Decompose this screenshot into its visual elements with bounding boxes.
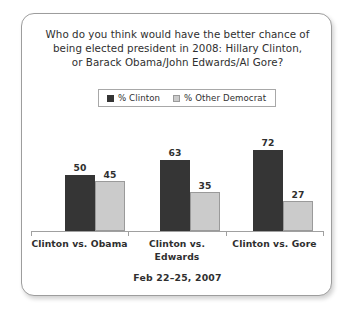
category-label-clinton-vs-gore: Clinton vs. Gore xyxy=(226,238,323,251)
legend-label-other-democrat: % Other Democrat xyxy=(184,93,266,103)
bar-clinton-edwards: 63 xyxy=(160,160,190,231)
bar-clinton-gore: 72 xyxy=(253,150,283,231)
category-label-clinton-vs-edwards: Clinton vs. Edwards xyxy=(128,238,226,263)
axis-tick-2 xyxy=(226,232,227,236)
plot-area: 50 45 63 35 72 xyxy=(31,119,324,231)
bar-value-other-edwards: 35 xyxy=(191,180,219,191)
bar-other-obama: 45 xyxy=(95,181,125,231)
chart-title: Who do you think would have the better c… xyxy=(32,27,323,70)
bar-value-clinton-edwards: 63 xyxy=(160,147,190,158)
legend-label-clinton: % Clinton xyxy=(118,93,160,103)
legend-item-other-democrat: % Other Democrat xyxy=(173,93,266,103)
category-label-gore-line-1: Clinton vs. Gore xyxy=(232,238,316,249)
bar-other-edwards: 35 xyxy=(190,192,220,231)
x-axis-line xyxy=(31,231,324,232)
category-label-clinton-vs-obama: Clinton vs. Obama xyxy=(31,238,128,251)
chart-legend: % Clinton % Other Democrat xyxy=(98,89,276,107)
chart-title-line-3: or Barack Obama/John Edwards/Al Gore? xyxy=(32,55,323,69)
category-label-edwards-line-2: Edwards xyxy=(155,251,200,262)
category-label-edwards-line-1: Clinton vs. xyxy=(149,238,205,249)
axis-tick-1 xyxy=(128,232,129,236)
chart-title-line-2: being elected president in 2008: Hillary… xyxy=(32,41,323,55)
legend-item-clinton: % Clinton xyxy=(107,93,160,103)
bar-value-other-gore: 27 xyxy=(284,189,312,200)
axis-tick-end xyxy=(323,232,324,236)
category-label-obama-line-1: Clinton vs. Obama xyxy=(31,238,127,249)
bar-value-clinton-gore: 72 xyxy=(253,137,283,148)
axis-tick-start xyxy=(31,232,32,236)
chart-card: Who do you think would have the better c… xyxy=(21,13,332,296)
bar-value-clinton-obama: 50 xyxy=(65,162,95,173)
bar-other-gore: 27 xyxy=(283,201,313,231)
light-swatch-icon xyxy=(173,95,180,102)
bar-clinton-obama: 50 xyxy=(65,175,95,231)
chart-title-line-1: Who do you think would have the better c… xyxy=(32,27,323,41)
survey-date-footnote: Feb 22–25, 2007 xyxy=(32,272,323,283)
dark-swatch-icon xyxy=(107,95,114,102)
bar-value-other-obama: 45 xyxy=(96,169,124,180)
